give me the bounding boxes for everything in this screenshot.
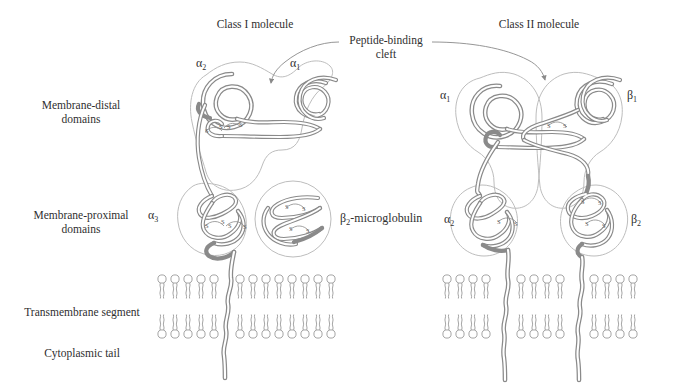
- figure-canvas: SS SS SS SS SS SS: [0, 0, 676, 388]
- svg-text:S: S: [497, 218, 501, 225]
- greek-subscript: 2: [202, 63, 206, 72]
- class-i-label-alpha3: α3: [148, 208, 158, 224]
- peptide-binding-cleft-callout: Peptide-binding cleft: [341, 33, 431, 61]
- svg-text:S: S: [221, 218, 225, 225]
- svg-text:S: S: [227, 123, 231, 130]
- svg-text:S: S: [243, 223, 247, 230]
- svg-text:S: S: [306, 227, 310, 234]
- svg-text:S: S: [289, 225, 293, 232]
- svg-text:S: S: [205, 127, 209, 134]
- greek-subscript: 2: [637, 219, 641, 228]
- class-ii-lipid-bilayer: [443, 275, 637, 338]
- svg-text:S: S: [602, 222, 606, 229]
- row-label-line-1: Membrane-distal: [6, 98, 156, 112]
- svg-text:S: S: [598, 199, 602, 206]
- svg-text:S: S: [285, 203, 289, 210]
- greek-subscript: 1: [296, 63, 300, 72]
- class-i-label-beta2-microglobulin: β2-microglobulin: [340, 211, 422, 227]
- class-ii-label-beta1: β1: [627, 88, 637, 104]
- class-i-inner-leaflet: [158, 315, 335, 339]
- class-ii-outer-leaflet: [443, 275, 637, 299]
- row-label-membrane-distal: Membrane-distal domains: [6, 98, 156, 126]
- svg-text:S: S: [581, 198, 585, 205]
- callout-line-1: Peptide-binding: [341, 33, 431, 47]
- svg-text:S: S: [585, 220, 589, 227]
- greek-subscript: 1: [446, 95, 450, 104]
- greek-subscript: 2: [450, 219, 454, 228]
- svg-text:S: S: [514, 220, 518, 227]
- greek-subscript: 1: [633, 95, 637, 104]
- svg-text:S: S: [228, 222, 232, 229]
- class-i-lipid-bilayer: [158, 275, 335, 338]
- svg-text:S: S: [302, 205, 306, 212]
- row-label-transmembrane-segment: Transmembrane segment: [4, 305, 160, 319]
- class-ii-title: Class II molecule: [472, 18, 606, 30]
- svg-text:S: S: [239, 121, 243, 128]
- row-label-line-1: Membrane-proximal: [2, 208, 160, 222]
- row-label-line-2: domains: [2, 222, 160, 236]
- class-i-label-alpha2: α2: [196, 56, 206, 72]
- beta2m-suffix: -microglobulin: [350, 211, 422, 225]
- callout-line-2: cleft: [341, 47, 431, 61]
- class-i-label-alpha1: α1: [290, 56, 300, 72]
- class-ii-inner-leaflet: [443, 315, 637, 339]
- row-label-line-2: domains: [6, 112, 156, 126]
- class-ii-label-alpha1: α1: [440, 88, 450, 104]
- greek-subscript: 3: [154, 215, 158, 224]
- mhc-structure-drawing: SS SS SS SS SS SS: [0, 0, 676, 388]
- class-i-title: Class I molecule: [188, 18, 322, 30]
- svg-text:S: S: [219, 123, 223, 130]
- svg-text:S: S: [205, 222, 209, 229]
- class-ii-label-beta2: β2: [631, 212, 641, 228]
- class-ii-label-alpha2: α2: [444, 212, 454, 228]
- class-i-outer-leaflet: [158, 275, 335, 299]
- svg-text:S: S: [563, 122, 567, 129]
- row-label-cytoplasmic-tail: Cytoplasmic tail: [4, 346, 160, 360]
- svg-text:S: S: [547, 122, 551, 129]
- row-label-membrane-proximal: Membrane-proximal domains: [2, 208, 160, 236]
